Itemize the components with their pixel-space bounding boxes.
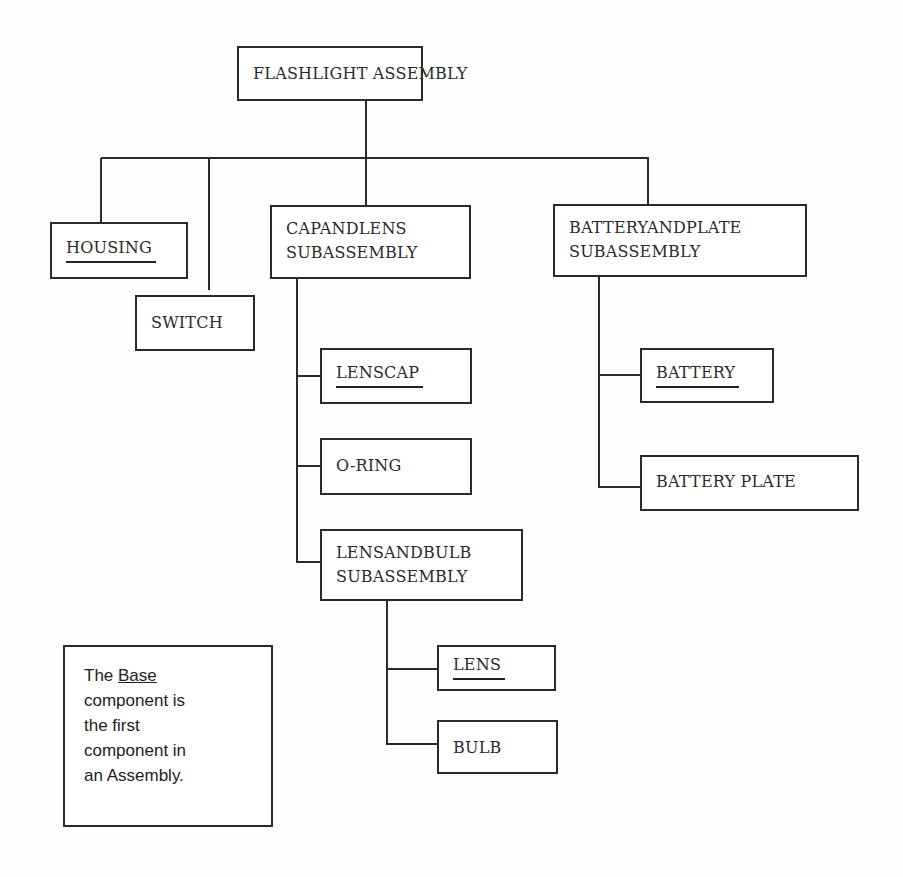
note-line-4: component in <box>84 738 271 763</box>
node-battery-plate: BATTERY PLATE <box>640 455 859 511</box>
note-line-1: The Base <box>84 663 271 688</box>
node-label: BULB <box>453 736 556 760</box>
node-o-ring: O-RING <box>320 438 472 495</box>
node-label: FLASHLIGHT ASSEMBLY <box>253 62 421 86</box>
node-flashlight-assembly: FLASHLIGHT ASSEMBLY <box>237 46 423 101</box>
note-emphasis-base: Base <box>118 666 157 685</box>
node-lens: LENS <box>437 645 556 691</box>
node-label-line1: BATTERYANDPLATE <box>569 216 805 240</box>
node-lenscap: LENSCAP <box>320 348 472 404</box>
diagram-canvas: FLASHLIGHT ASSEMBLY HOUSING SWITCH CAPAN… <box>0 0 903 877</box>
note-line-5: an Assembly. <box>84 763 271 788</box>
node-label-underlined: BATTERY <box>656 362 739 388</box>
node-battery-and-plate-subassembly: BATTERYANDPLATE SUBASSEMBLY <box>553 204 807 277</box>
node-label: O-RING <box>336 454 470 478</box>
node-bulb: BULB <box>437 720 558 774</box>
node-label-line1: CAPANDLENS <box>286 217 469 241</box>
node-cap-and-lens-subassembly: CAPANDLENS SUBASSEMBLY <box>270 205 471 279</box>
base-component-note: The Base component is the first componen… <box>63 645 273 827</box>
node-label-underlined: LENS <box>453 654 505 680</box>
node-label-line2: SUBASSEMBLY <box>336 565 521 589</box>
note-line-3: the first <box>84 713 271 738</box>
node-label: SWITCH <box>151 311 253 335</box>
node-label-line1: LENSANDBULB <box>336 541 521 565</box>
node-battery: BATTERY <box>640 348 774 403</box>
node-label-underlined: HOUSING <box>66 237 156 263</box>
node-label-underlined: LENSCAP <box>336 362 423 388</box>
node-label-line2: SUBASSEMBLY <box>286 241 469 265</box>
node-housing: HOUSING <box>50 222 188 279</box>
node-label-line2: SUBASSEMBLY <box>569 240 805 264</box>
note-line-2: component is <box>84 688 271 713</box>
node-switch: SWITCH <box>135 295 255 351</box>
node-lens-and-bulb-subassembly: LENSANDBULB SUBASSEMBLY <box>320 529 523 601</box>
node-label: BATTERY PLATE <box>656 470 857 494</box>
